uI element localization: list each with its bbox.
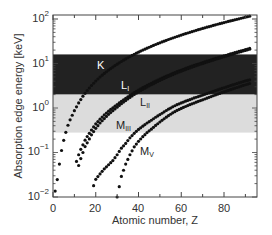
x-tick-label-80: 80 <box>214 202 234 214</box>
x-tick-label-0: 0 <box>43 202 63 214</box>
y-tick-label-0.1: 10−1 <box>19 145 49 157</box>
y-tick-label-0.01: 10−2 <box>19 190 49 202</box>
curve-label-l1: LI <box>121 80 129 92</box>
y-tick-label-1: 100 <box>19 101 49 113</box>
x-tick-label-40: 40 <box>128 202 148 214</box>
curve-label-k: K <box>97 60 104 72</box>
x-tick-label-20: 20 <box>85 202 105 214</box>
y-tick-label-10: 101 <box>19 57 49 69</box>
x-tick-label-60: 60 <box>171 202 191 214</box>
x-axis-label: Atomic number, Z <box>53 214 257 226</box>
curve-label-m3: MIII <box>116 120 131 132</box>
y-tick-label-100: 102 <box>19 12 49 24</box>
curve-label-m5: MV <box>140 146 154 158</box>
curve-label-l2: LII <box>140 97 150 109</box>
